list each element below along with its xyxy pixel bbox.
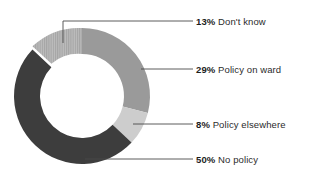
callout-policy-elsewhere: 8% Policy elsewhere xyxy=(196,119,286,130)
callout-dont-know-text: Don't know xyxy=(218,16,266,27)
callout-no-policy-text: No policy xyxy=(218,154,258,165)
callout-no-policy-pct: 50% xyxy=(196,154,215,165)
callout-no-policy: 50% No policy xyxy=(196,154,258,165)
callout-policy-on-ward: 29% Policy on ward xyxy=(196,64,281,75)
donut-slices xyxy=(14,28,150,164)
callout-dont-know: 13% Don't know xyxy=(196,16,266,27)
callout-policy-on-ward-pct: 29% xyxy=(196,64,215,75)
donut-chart-figure xyxy=(0,0,315,184)
callout-policy-elsewhere-pct: 8% xyxy=(196,119,210,130)
callout-dont-know-pct: 13% xyxy=(196,16,215,27)
callout-policy-on-ward-text: Policy on ward xyxy=(218,64,281,75)
slice-policy-on-ward[interactable] xyxy=(82,28,150,113)
callout-policy-elsewhere-text: Policy elsewhere xyxy=(213,119,286,130)
